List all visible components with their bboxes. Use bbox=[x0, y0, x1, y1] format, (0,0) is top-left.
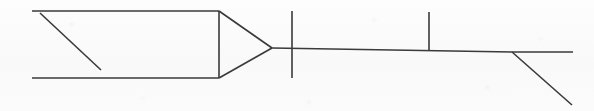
line-diagram bbox=[0, 0, 594, 111]
arrow-head-upper-edge bbox=[219, 11, 272, 48]
ink-strokes bbox=[32, 11, 573, 105]
horizontal-axis-line bbox=[272, 48, 573, 52]
branch-diagonal bbox=[512, 52, 572, 105]
drawing-canvas bbox=[0, 0, 594, 111]
interior-diagonal bbox=[40, 13, 101, 70]
arrow-head-lower-edge bbox=[219, 48, 272, 78]
